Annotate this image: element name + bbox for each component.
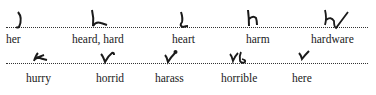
shorthand-outline-harm	[245, 8, 261, 28]
word-label-heart: heart	[172, 34, 195, 46]
shorthand-outline-hardware	[322, 8, 350, 30]
word-label-heard-hard: heard, hard	[72, 34, 124, 46]
word-label-her: her	[6, 34, 21, 46]
shorthand-outline-harass	[163, 48, 179, 64]
word-label-hurry: hurry	[26, 73, 51, 85]
word-label-here: here	[292, 73, 312, 85]
word-label-hardware: hardware	[311, 34, 354, 46]
shorthand-outline-her	[14, 10, 26, 30]
shorthand-outline-heard-hard	[89, 8, 109, 28]
word-label-horrible: horrible	[221, 73, 257, 85]
shorthand-outline-hurry	[32, 51, 50, 63]
word-label-harm: harm	[246, 34, 270, 46]
shorthand-outline-here	[297, 49, 311, 61]
word-label-harass: harass	[155, 73, 184, 85]
shorthand-outline-horrid	[99, 50, 117, 64]
shorthand-outline-heart	[177, 10, 191, 28]
word-label-horrid: horrid	[96, 73, 124, 85]
dotted-writing-line-row-2	[6, 63, 368, 64]
shorthand-outline-horrible	[228, 50, 250, 66]
